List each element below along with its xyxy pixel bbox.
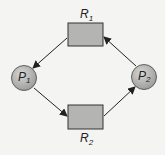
edge-r2-p2: [104, 87, 135, 116]
resource-r2-box: [68, 105, 103, 129]
resource-r1-label: R1: [80, 7, 93, 23]
resource-r1-box: [68, 23, 103, 46]
edge-r1-p1: [33, 38, 67, 68]
edge-p2-r1: [104, 37, 136, 66]
resource-allocation-graph: R1 R2 P1 P2: [0, 0, 165, 155]
edge-p1-r2: [34, 88, 67, 116]
resource-r2-label: R2: [80, 131, 94, 147]
